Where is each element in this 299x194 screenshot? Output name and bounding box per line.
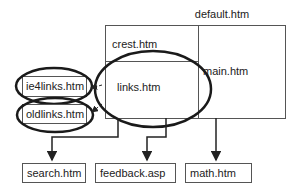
math-htm-label: math.htm (190, 167, 236, 179)
default-htm-label: default.htm (195, 8, 249, 20)
search-htm-label: search.htm (27, 167, 81, 179)
oldlinks-htm-label: oldlinks.htm (26, 108, 84, 120)
feedback-asp-label: feedback.asp (100, 167, 165, 179)
arrow-links-to-oldlinks (92, 104, 102, 112)
arrow-to-feedback (147, 118, 166, 160)
ie4links-htm-label: ie4links.htm (26, 80, 84, 92)
site-frame-diagram: default.htm crest.htm main.htm links.htm… (0, 0, 299, 194)
crest-htm-label: crest.htm (112, 38, 157, 50)
main-htm-label: main.htm (203, 65, 248, 77)
links-htm-label: links.htm (117, 81, 160, 93)
